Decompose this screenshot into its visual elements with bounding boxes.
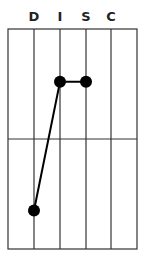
label-i: I [58,9,63,24]
column-labels: D I S C [29,9,116,24]
label-d: D [29,9,40,24]
label-c: C [106,9,116,24]
data-point-s [80,76,92,88]
disc-chart: D I S C [0,0,145,265]
data-point-i [54,76,66,88]
grid [8,29,137,249]
label-s: S [81,9,90,24]
data-point-d [28,205,40,217]
